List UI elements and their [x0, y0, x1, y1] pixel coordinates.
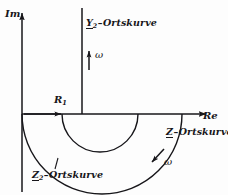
r1-label: R1	[54, 95, 67, 106]
z2-ortskurve-label: Z2–Ortskurve	[32, 170, 103, 181]
y2-ortskurve-label: Y2–Ortskurve	[86, 18, 157, 29]
imaginary-axis-label: Im	[5, 9, 20, 19]
omega-down-label: ω	[164, 157, 172, 167]
y2-symbol: Y	[86, 18, 93, 29]
omega-up-symbol: ω	[95, 49, 103, 60]
real-axis-label-text: Re	[203, 110, 218, 121]
ortskurve-diagram: Im Re R1 Y2–Ortskurve Z–Ortskurve Z2–Ort…	[0, 0, 228, 195]
z-symbol: Z	[166, 127, 173, 138]
imaginary-axis-label-text: Im	[5, 8, 20, 19]
z-ortskurve-semicircle	[22, 114, 182, 194]
omega-down-symbol: ω	[164, 156, 172, 167]
z2-symbol: Z	[32, 170, 39, 181]
z2-curve-name: Ortskurve	[49, 169, 103, 180]
z-ortskurve-label: Z–Ortskurve	[166, 127, 228, 138]
real-axis-label: Re	[203, 111, 218, 121]
omega-down-arrow	[152, 149, 164, 162]
r1-subscript: 1	[62, 99, 67, 107]
z2-ortskurve-semicircle	[62, 114, 138, 152]
z2-label-leader	[55, 158, 58, 169]
y2-curve-name: Ortskurve	[103, 17, 157, 28]
diagram-canvas	[0, 0, 228, 195]
z-curve-name: Ortskurve	[179, 126, 228, 137]
omega-up-label: ω	[95, 50, 103, 60]
